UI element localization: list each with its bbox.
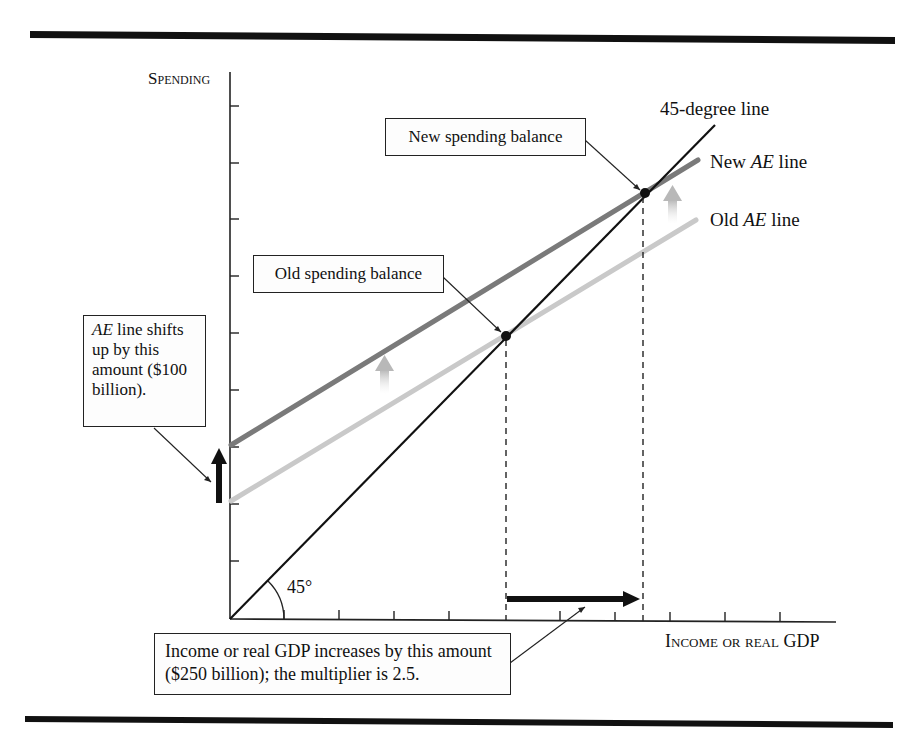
old-ae-suffix: line xyxy=(766,209,799,230)
old-equilibrium-point xyxy=(501,331,511,341)
forty-five-degree-line xyxy=(230,125,715,619)
old-ae-line-label: Old AE line xyxy=(710,210,800,229)
x-axis-label: Income or real GDP xyxy=(665,632,819,650)
new-spending-balance-callout: New spending balance xyxy=(385,118,586,156)
ae-shift-callout: AE line shifts up by this amount ($100 b… xyxy=(83,315,206,427)
old-ae-italic: AE xyxy=(743,209,766,230)
bottom-rule xyxy=(25,716,893,728)
angle-arc xyxy=(268,581,284,619)
new-ae-line xyxy=(231,160,698,445)
gdp-increase-callout: Income or real GDP increases by this amo… xyxy=(154,633,511,695)
y-ticks xyxy=(230,106,239,561)
gdp-increase-arrow-icon xyxy=(507,591,640,607)
ae-shift-arrow-icon xyxy=(211,448,227,503)
new-equilibrium-point xyxy=(640,188,650,198)
x-axis xyxy=(230,619,836,622)
gdp-leader xyxy=(510,607,585,663)
angle-label: 45° xyxy=(287,578,312,596)
new-ae-suffix: line xyxy=(774,151,807,172)
new-ae-italic: AE xyxy=(751,151,774,172)
top-rule xyxy=(30,31,895,44)
old-ae-prefix: Old xyxy=(710,209,743,230)
new-ae-prefix: New xyxy=(710,151,751,172)
old-spending-balance-callout: Old spending balance xyxy=(253,255,444,293)
shift-leader xyxy=(154,428,211,482)
forty-five-line-label: 45-degree line xyxy=(660,99,769,118)
shift-arrow-icon xyxy=(663,185,682,224)
y-axis-label: Spending xyxy=(148,70,210,87)
ae-shift-italic: AE xyxy=(92,320,113,339)
shift-arrow-icon xyxy=(375,355,394,394)
new-ae-line-label: New AE line xyxy=(710,152,807,171)
new-balance-leader xyxy=(585,140,640,190)
